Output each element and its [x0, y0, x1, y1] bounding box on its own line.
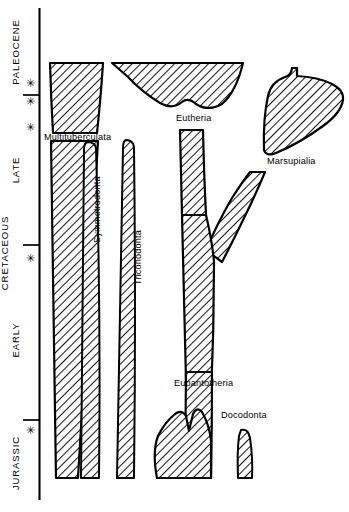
- taxon-label-docodonta: Docodonta: [221, 410, 268, 420]
- asterisk-marker: ✳: [26, 252, 35, 264]
- taxon-label-marsupialia: Marsupialia: [267, 156, 316, 166]
- taxon-label-multituberculata: Multituberculata: [44, 132, 112, 142]
- taxon-label-triconodonta: Triconodonta: [133, 229, 143, 285]
- asterisk-marker: ✳: [26, 424, 35, 436]
- taxon-shape-eutheria-trunk: [182, 215, 214, 398]
- era-label-early: EARLY: [10, 323, 21, 358]
- taxon-label-symmetrodonta: Symmetrodonta: [92, 175, 102, 243]
- taxon-shape-eutheria-stem: [180, 130, 206, 215]
- era-label-late: LATE: [10, 157, 21, 184]
- taxon-label-eutheria: Eutheria: [176, 113, 212, 123]
- taxon-shape-docodonta: [238, 430, 253, 478]
- era-label-cretaceous: CRETACEOUS: [0, 216, 10, 290]
- taxon-shape-multituberculata-upper: [50, 63, 103, 133]
- era-label-jurassic: JURASSIC: [10, 436, 21, 490]
- asterisk-marker: ✳: [26, 95, 35, 107]
- asterisk-marker: ✳: [26, 77, 35, 89]
- era-label-paleocene: PALEOCENE: [10, 19, 21, 84]
- chart-canvas: ✳ ✳ ✳ ✳ ✳ PALEOCENE LATE EARLY JURASSIC …: [0, 0, 349, 512]
- evolutionary-time-chart: ✳ ✳ ✳ ✳ ✳ PALEOCENE LATE EARLY JURASSIC …: [0, 0, 349, 512]
- asterisk-marker: ✳: [26, 121, 35, 133]
- taxon-label-eupantotheria: Eupantotheria: [174, 378, 234, 388]
